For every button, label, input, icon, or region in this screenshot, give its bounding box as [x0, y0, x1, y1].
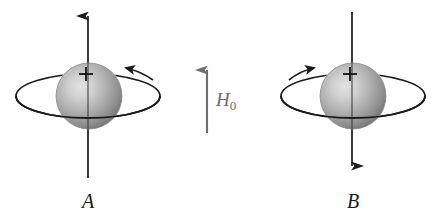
figure-group-b: B — [281, 12, 425, 212]
spin-diagram-svg: A H0 — [0, 0, 436, 220]
figure-canvas: A H0 — [0, 0, 436, 220]
field-label-symbol: H — [215, 89, 231, 110]
figure-group-a: A — [16, 16, 160, 212]
figure-label-b: B — [347, 190, 359, 212]
field-label-h0: H0 — [215, 89, 236, 113]
field-group: H0 — [207, 70, 236, 133]
field-label-subscript: 0 — [230, 98, 237, 113]
figure-label-a: A — [80, 190, 95, 212]
